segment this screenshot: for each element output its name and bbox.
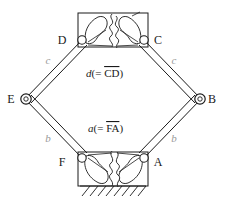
bottom-flexure-block	[78, 151, 148, 187]
equation-a-open: (=	[94, 122, 107, 135]
vertex-label-D: D	[58, 33, 67, 47]
vertex-label-E: E	[7, 92, 14, 106]
vertex-label-C: C	[154, 33, 162, 47]
vertex-label-B: B	[208, 92, 216, 106]
link-label-b-right: b	[171, 132, 177, 144]
link-label-c-left: c	[46, 54, 51, 66]
diagram-canvas: D C E B F A c c b b d(= CD) a(= FA)	[0, 0, 225, 207]
ground-hatching	[80, 186, 146, 196]
svg-text:d(= CD): d(= CD)	[86, 67, 123, 80]
joint-A	[140, 154, 148, 162]
vertex-label-F: F	[59, 155, 66, 169]
equation-a-overline: FA	[106, 122, 119, 134]
equation-a-close: )	[119, 122, 123, 135]
vertex-labels: D C E B F A	[7, 33, 216, 169]
link-EF	[25, 95, 87, 158]
top-flexure-block	[78, 12, 148, 48]
link-ED	[25, 40, 87, 103]
equation-d-overline: CD	[104, 67, 119, 79]
joint-F	[78, 154, 86, 162]
equation-d-close: )	[119, 67, 123, 80]
side-joints	[21, 94, 205, 104]
equation-label-a: a(= FA)	[88, 122, 123, 135]
link-label-b-left: b	[45, 132, 51, 144]
link-CB	[139, 40, 201, 103]
joint-D	[78, 36, 86, 44]
equation-label-d: d(= CD)	[86, 67, 123, 80]
mechanism-diagram: D C E B F A c c b b d(= CD) a(= FA)	[0, 0, 225, 207]
vertex-label-A: A	[154, 155, 163, 169]
link-AB	[139, 95, 201, 158]
link-label-c-right: c	[172, 54, 177, 66]
svg-text:a(= FA): a(= FA)	[88, 122, 123, 135]
equation-d-open: (=	[92, 67, 105, 80]
joint-C	[140, 36, 148, 44]
